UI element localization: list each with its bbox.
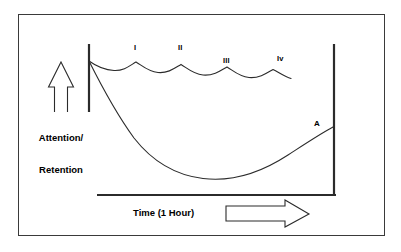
wave-label-2: II bbox=[178, 44, 183, 52]
retention-curve-label: A bbox=[314, 120, 320, 129]
x-axis-label: Time (1 Hour) bbox=[133, 208, 194, 219]
y-axis-label-line-1: Attention/ bbox=[25, 133, 97, 144]
arrow-right-outline-icon bbox=[226, 200, 309, 227]
figure-root: Attention/ Retention Time (1 Hour) I II … bbox=[0, 0, 401, 252]
y-axis-label: Attention/ Retention bbox=[25, 112, 97, 197]
retention-decay-curve bbox=[89, 61, 333, 179]
wave-label-4: Iv bbox=[277, 55, 284, 63]
attention-wave-curve bbox=[89, 61, 291, 79]
y-axis-label-line-2: Retention bbox=[25, 165, 97, 176]
wave-label-3: III bbox=[223, 57, 230, 65]
wave-label-1: I bbox=[134, 44, 136, 52]
